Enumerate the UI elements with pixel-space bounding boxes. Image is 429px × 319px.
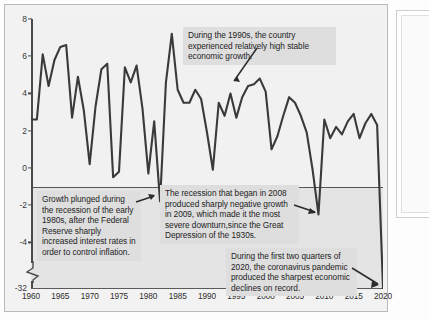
y-tick-label: 6 [22, 52, 27, 61]
y-tick-label: 0 [22, 164, 27, 173]
side-panel-inner [401, 15, 429, 213]
annotation-covid-2020: During the first two quarters of 2020, t… [226, 248, 357, 296]
chart-screenshot: 86420-2-4-32 196019651970197519801985199… [0, 0, 429, 319]
annotation-early-1980s-recession: Growth plunged during the recession of t… [37, 191, 141, 261]
side-panel [396, 10, 429, 218]
x-tick-label: 1975 [110, 291, 128, 301]
y-tick-label: 2 [22, 126, 27, 135]
figure-card: 86420-2-4-32 196019651970197519801985199… [4, 4, 388, 312]
x-tick-label: 1960 [22, 291, 40, 301]
x-tick-label: 1980 [139, 291, 157, 301]
annotation-2008-recession: The recession that began in 2008 produce… [160, 185, 299, 244]
y-tick-label: 4 [22, 89, 27, 98]
x-tick-label: 2020 [374, 291, 392, 301]
y-tick-label: 8 [22, 15, 27, 24]
x-tick-label: 1965 [51, 291, 69, 301]
x-tick-label: 1985 [169, 291, 187, 301]
y-tick-label: -2 [19, 201, 27, 210]
x-tick-label: 1990 [198, 291, 216, 301]
y-tick-label: -4 [19, 238, 27, 247]
annotation-1990s-growth: During the 1990s, the country experience… [183, 27, 336, 65]
x-tick-label: 1970 [81, 291, 99, 301]
